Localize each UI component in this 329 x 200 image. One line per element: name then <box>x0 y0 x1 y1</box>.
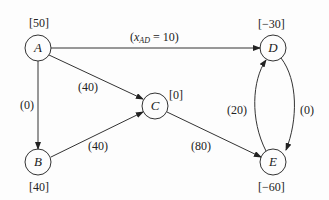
edge-e-d-label: (20) <box>227 104 247 116</box>
network-flow-diagram: A B C D E [50] [40] [0] [−30] [−60] (xAD… <box>0 0 329 200</box>
node-a-supply: [50] <box>29 17 49 29</box>
node-a-label: A <box>25 35 51 61</box>
node-b-supply: [40] <box>29 181 49 193</box>
edge-c-e <box>167 112 261 157</box>
node-c-label: C <box>142 93 168 119</box>
edge-e-d <box>255 60 266 151</box>
edge-a-d-label: (xAD = 10) <box>130 31 179 45</box>
node-d-supply: [−30] <box>258 18 285 30</box>
node-e-supply: [−60] <box>258 181 285 193</box>
edge-d-e <box>281 58 294 150</box>
edge-d-e-label: (0) <box>300 104 314 116</box>
node-b-label: B <box>25 149 51 175</box>
edge-a-c-label: (40) <box>78 81 98 93</box>
node-d-label: D <box>260 35 286 61</box>
node-c-supply: [0] <box>169 89 183 101</box>
edge-b-c-label: (40) <box>88 140 108 152</box>
edge-a-b-label: (0) <box>20 99 34 111</box>
node-e-label: E <box>260 149 286 175</box>
edge-c-e-label: (80) <box>191 140 211 152</box>
